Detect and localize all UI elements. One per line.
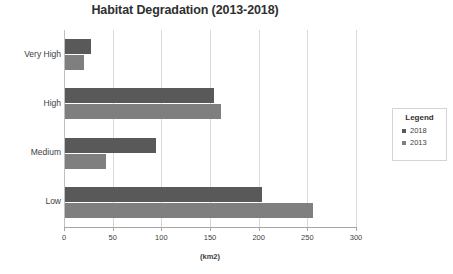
legend-item-label: 2013 [410, 138, 427, 147]
x-axis-tick-label: 250 [292, 233, 322, 242]
x-axis-title: (km2) [64, 252, 356, 261]
x-axis-tick [210, 227, 211, 231]
plot-area [64, 30, 356, 227]
bars-layer [64, 30, 356, 227]
x-axis-tick-label: 300 [341, 233, 371, 242]
x-axis-tick [259, 227, 260, 231]
x-axis-tick-label: 200 [244, 233, 274, 242]
x-axis-tick-label: 100 [146, 233, 176, 242]
x-axis-tick [64, 227, 65, 231]
chart-title: Habitat Degradation (2013-2018) [0, 3, 370, 17]
bar-2013-high [65, 104, 221, 119]
legend-title: Legend [393, 113, 446, 122]
legend-swatch-icon [402, 141, 406, 145]
legend-items: 20182013 [393, 126, 446, 147]
x-axis-tick-label: 0 [49, 233, 79, 242]
legend-item-2013[interactable]: 2013 [393, 138, 446, 147]
bar-2018-high [65, 88, 214, 103]
legend-swatch-icon [402, 129, 406, 133]
x-axis-tick-label: 150 [195, 233, 225, 242]
x-axis-tick-label: 50 [98, 233, 128, 242]
bar-2018-medium [65, 138, 156, 153]
bar-2013-medium [65, 154, 106, 169]
gridline [356, 30, 357, 227]
y-axis-category-label: Medium [3, 147, 61, 157]
bar-2018-low [65, 187, 262, 202]
x-axis-tick [161, 227, 162, 231]
x-axis-tick [356, 227, 357, 231]
x-axis-tick [307, 227, 308, 231]
legend: Legend 20182013 [392, 108, 447, 161]
y-axis-category-label: Very High [3, 49, 61, 59]
y-axis-category-labels: Very HighHighMediumLow [0, 30, 61, 227]
y-axis-category-label: Low [3, 196, 61, 206]
x-axis-tick [113, 227, 114, 231]
legend-item-2018[interactable]: 2018 [393, 126, 446, 135]
y-axis-category-label: High [3, 98, 61, 108]
bar-2018-very-high [65, 39, 91, 54]
bar-2013-low [65, 203, 313, 218]
legend-item-label: 2018 [410, 126, 427, 135]
bar-chart: Habitat Degradation (2013-2018) Very Hig… [0, 0, 453, 274]
bar-2013-very-high [65, 55, 84, 70]
